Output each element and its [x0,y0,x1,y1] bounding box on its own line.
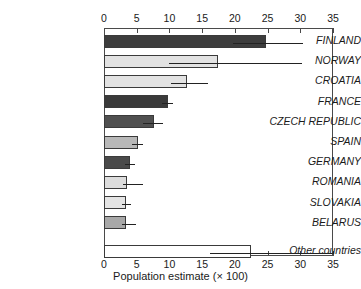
bar [104,75,187,88]
category-label: Other countries [261,245,361,256]
x-tick-label-bottom: 20 [229,259,241,270]
x-tick-top [202,28,203,33]
x-tick-label-bottom: 15 [196,259,208,270]
x-tick-label-top: 30 [294,13,306,24]
category-label: BELARUS [261,217,361,228]
x-tick-top [235,28,236,33]
x-axis-title: Population estimate (× 100) [0,270,361,283]
category-label: FRANCE [261,96,361,107]
category-label: CZECH REPUBLIC [261,116,361,127]
error-bar [123,184,143,185]
x-tick-label-bottom: 0 [101,259,107,270]
error-bar [169,63,302,64]
category-label: SLOVAKIA [261,197,361,208]
x-tick-label-bottom: 30 [294,259,306,270]
bar [104,136,138,149]
x-tick-label-top: 35 [327,13,339,24]
x-tick-label-bottom: 35 [327,259,339,270]
x-tick-label-top: 10 [164,13,176,24]
error-bar [132,144,142,145]
x-tick-top [169,28,170,33]
x-tick-label-top: 5 [134,13,140,24]
x-tick-label-top: 20 [229,13,241,24]
x-tick-top [137,28,138,33]
x-tick-label-top: 15 [196,13,208,24]
x-tick-label-bottom: 25 [262,259,274,270]
category-label: NORWAY [261,55,361,66]
x-tick-top [333,28,334,33]
x-tick-label-top: 25 [262,13,274,24]
error-bar [162,103,174,104]
error-bar [143,123,163,124]
category-label: GERMANY [261,156,361,167]
population-estimate-bar-chart: 0055101015152020252530303535 FINLANDNORW… [0,0,361,289]
category-label: SPAIN [261,136,361,147]
x-tick-label-bottom: 5 [134,259,140,270]
bar [104,156,130,169]
bar [104,35,266,48]
error-bar [125,164,135,165]
category-label: ROMANIA [261,176,361,187]
bar [104,115,154,128]
error-bar [233,43,303,44]
x-tick-label-top: 0 [101,13,107,24]
error-bar [210,253,332,254]
bar [104,196,126,209]
category-label: FINLAND [261,35,361,46]
bar [104,95,168,108]
x-tick-top [104,28,105,33]
category-label: CROATIA [261,75,361,86]
x-tick-label-bottom: 10 [164,259,176,270]
bar [104,55,218,68]
error-bar [122,224,136,225]
error-bar [171,83,208,84]
bar [104,176,127,189]
x-tick-top [300,28,301,33]
bar [104,216,126,229]
error-bar [122,204,131,205]
bar [104,245,251,258]
x-tick-top [268,28,269,33]
